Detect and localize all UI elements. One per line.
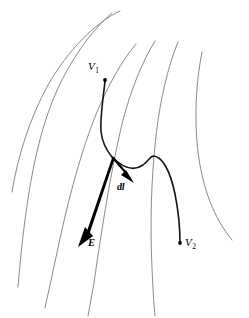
label-v2-letter: V [185, 236, 192, 248]
point-v2-dot [178, 241, 182, 245]
label-v1-letter: V [88, 60, 95, 72]
vector-e [78, 157, 115, 248]
vector-e-shaft [86, 157, 115, 236]
equipotential-line-3 [45, 44, 136, 308]
physics-figure: V1 V2 dl E [0, 0, 249, 318]
label-e: E [88, 238, 95, 249]
equipotential-line-2 [18, 13, 112, 287]
path-segment-upper [101, 81, 112, 157]
label-v2: V2 [185, 237, 196, 250]
point-v1-dot [103, 78, 107, 82]
equipotential-line-6 [196, 52, 232, 240]
label-v2-subscript: 2 [192, 242, 196, 251]
equipotential-lines [12, 11, 232, 316]
figure-canvas [0, 0, 249, 318]
equipotential-line-1 [12, 11, 120, 192]
vector-dl [113, 158, 134, 183]
label-dl: dl [117, 182, 124, 192]
equipotential-line-5 [151, 42, 178, 316]
label-v1-subscript: 1 [95, 66, 99, 75]
label-v1: V1 [88, 61, 99, 74]
equipotential-line-4 [88, 41, 155, 316]
